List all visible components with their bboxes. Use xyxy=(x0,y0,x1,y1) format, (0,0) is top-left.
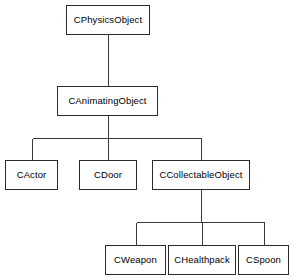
class-node-label: CActor xyxy=(15,170,49,180)
class-node-ccollectableobject[interactable]: CCollectableObject xyxy=(152,160,250,190)
class-node-cweapon[interactable]: CWeapon xyxy=(105,245,166,275)
class-node-label: CCollectableObject xyxy=(157,170,244,180)
connector-layer xyxy=(0,0,295,280)
class-node-label: CDoor xyxy=(92,170,124,180)
class-node-label: CPhysicsObject xyxy=(72,15,144,25)
class-node-label: CAnimatingObject xyxy=(66,96,148,106)
class-node-label: CWeapon xyxy=(112,255,159,265)
class-node-cdoor[interactable]: CDoor xyxy=(79,160,137,190)
class-node-cphysicsobject[interactable]: CPhysicsObject xyxy=(66,5,150,35)
class-node-canimatingobject[interactable]: CAnimatingObject xyxy=(57,86,158,116)
class-node-cactor[interactable]: CActor xyxy=(5,160,58,190)
class-node-label: CSpoon xyxy=(244,255,283,265)
class-node-cspoon[interactable]: CSpoon xyxy=(238,245,289,275)
class-hierarchy-diagram: CPhysicsObject CAnimatingObject CActor C… xyxy=(0,0,295,280)
class-node-chealthpack[interactable]: CHealthpack xyxy=(168,245,236,275)
class-node-label: CHealthpack xyxy=(172,255,232,265)
